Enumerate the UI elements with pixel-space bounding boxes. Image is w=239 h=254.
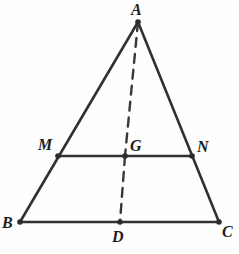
segments-layer (20, 22, 219, 222)
vertex-label-a: A (131, 2, 142, 18)
vertex-dots-layer (17, 19, 222, 225)
vertex-label-n: N (197, 139, 209, 155)
vertex-dot-g (122, 153, 128, 159)
vertex-label-d: D (112, 229, 124, 245)
vertex-label-g: G (130, 138, 142, 154)
vertex-dot-d (117, 219, 123, 225)
side-AB (20, 22, 138, 222)
vertex-dot-n (189, 153, 195, 159)
geometry-canvas (0, 0, 239, 254)
side-AC (138, 22, 219, 222)
vertex-label-m: M (38, 137, 52, 153)
vertex-dot-a (135, 19, 141, 25)
vertex-dot-m (55, 153, 61, 159)
median-GD (120, 156, 125, 222)
vertex-label-c: C (222, 224, 233, 240)
vertex-dot-c (216, 219, 222, 225)
vertex-label-b: B (2, 215, 13, 231)
geometry-figure: A B C D M N G (0, 0, 239, 254)
vertex-dot-b (17, 219, 23, 225)
